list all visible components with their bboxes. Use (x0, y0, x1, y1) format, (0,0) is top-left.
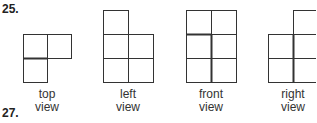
label-line: view (103, 101, 153, 114)
label-line: view (268, 101, 316, 114)
top-view-label: top view (22, 88, 72, 114)
label-line: view (22, 101, 72, 114)
top-view-grid (23, 35, 72, 83)
left-view-label: left view (103, 88, 153, 114)
left-view-grid (104, 11, 154, 83)
front-view-label: front view (186, 88, 236, 114)
right-view-label: right view (268, 88, 316, 114)
label-line: view (186, 101, 236, 114)
right-view-grid (269, 11, 317, 84)
front-view-grid (186, 11, 237, 84)
